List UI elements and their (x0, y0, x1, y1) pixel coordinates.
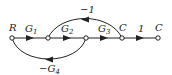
gain-label-minus-g4: −G4 (39, 63, 60, 75)
branch-feedback-minus-g4 (12, 38, 86, 63)
branch-g2 (48, 35, 86, 41)
gain-label-unity: 1 (138, 23, 144, 34)
node-c2 (156, 36, 160, 40)
node-label-c2: C (155, 22, 163, 33)
signal-flow-graph: R C C G1 G2 G3 1 −1 −G4 (0, 0, 172, 75)
branch-g1 (12, 35, 48, 41)
gain-label-minus-1: −1 (80, 4, 95, 15)
node-r (10, 36, 14, 40)
branch-unity (122, 35, 158, 41)
gain-label-g1: G1 (25, 23, 37, 36)
node-label-c1: C (119, 22, 127, 33)
node-c1 (120, 36, 124, 40)
node-3 (84, 36, 88, 40)
branch-feedback-minus-1 (48, 17, 122, 39)
node-2 (46, 36, 50, 40)
branch-g3 (86, 35, 122, 41)
node-label-r: R (8, 22, 17, 33)
gain-label-g2: G2 (61, 23, 74, 36)
